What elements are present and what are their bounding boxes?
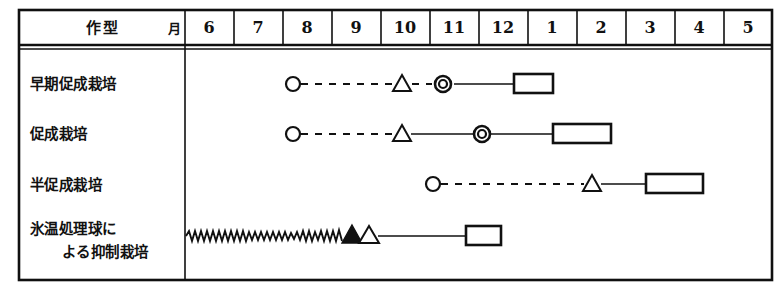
marker-double-circle-row2-inner — [478, 130, 486, 138]
row-label-hyouon-line2: よる抑制栽培 — [62, 243, 149, 260]
month-header-9: 9 — [350, 18, 361, 37]
label-column-title: 作型 — [86, 19, 120, 37]
schedule-row-souki-sokusei — [286, 74, 553, 93]
table-outer-border — [19, 10, 772, 280]
marker-open-triangle-row4 — [359, 226, 379, 243]
month-header-12: 12 — [492, 18, 514, 37]
marker-open-circle-row1 — [286, 77, 300, 91]
marker-filled-triangle-row4 — [342, 225, 362, 243]
row-label-hyouon-line1: 氷温処理球に — [30, 220, 116, 237]
month-header-7: 7 — [252, 18, 263, 37]
month-header-2: 2 — [595, 18, 606, 37]
segment-wavy-row4 — [186, 230, 342, 241]
month-header-8: 8 — [301, 18, 312, 37]
schedule-row-sokusei — [286, 124, 611, 143]
marker-open-triangle-row1 — [393, 75, 411, 91]
month-header-11: 11 — [443, 18, 465, 37]
row-label-souki-sokusei: 早期促成栽培 — [30, 75, 117, 92]
month-header-1: 1 — [546, 18, 557, 37]
marker-open-triangle-row2 — [393, 125, 411, 141]
marker-harvest-rect-row4 — [466, 226, 501, 245]
cultivation-schedule-chart: 作型 月 6 7 8 9 10 11 12 1 2 3 4 5 早期促成栽培 促… — [0, 0, 779, 295]
marker-harvest-rect-row1 — [514, 74, 553, 93]
marker-double-circle-row1-inner — [439, 80, 447, 88]
row-label-sokusei: 促成栽培 — [29, 125, 88, 142]
marker-open-circle-row2 — [286, 127, 300, 141]
row-label-han-sokusei: 半促成栽培 — [30, 176, 103, 193]
marker-harvest-rect-row2 — [553, 124, 611, 143]
month-header-5: 5 — [742, 18, 753, 37]
month-header-6: 6 — [203, 18, 214, 37]
month-header-3: 3 — [644, 18, 655, 37]
marker-open-triangle-row3 — [583, 175, 601, 191]
schedule-row-han-sokusei — [426, 174, 703, 193]
gantt-canvas: 作型 月 6 7 8 9 10 11 12 1 2 3 4 5 早期促成栽培 促… — [0, 0, 779, 295]
schedule-row-hyouon-yokusei — [186, 225, 501, 245]
month-header-10: 10 — [394, 18, 416, 37]
marker-harvest-rect-row3 — [646, 174, 703, 193]
month-header-4: 4 — [693, 18, 704, 37]
month-unit-label: 月 — [167, 21, 181, 36]
marker-open-circle-row3 — [426, 177, 440, 191]
